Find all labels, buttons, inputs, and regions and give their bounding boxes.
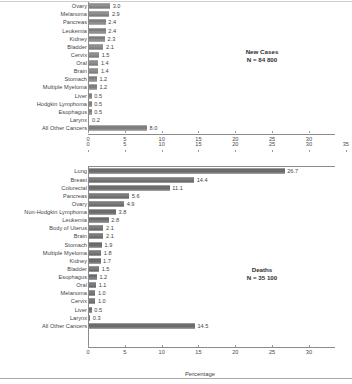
bar-value-label: 0.5 [94, 101, 102, 107]
bar-value-label: 1.0 [98, 290, 106, 296]
category-label: Brain [74, 68, 87, 74]
category-label: Oral [76, 60, 87, 66]
bar-value-label: 0.3 [93, 315, 101, 321]
bar-row: Brain2.1 [0, 232, 352, 240]
bar [88, 85, 97, 90]
bar-wrapper [88, 250, 101, 255]
bar-row: Stomach1.9 [0, 241, 352, 249]
category-label: Bladder [67, 44, 87, 50]
annotation-n: N = 84 800 [212, 56, 312, 64]
bar [88, 169, 285, 174]
bar-value-label: 2.8 [111, 217, 119, 223]
category-label: Liver [75, 307, 87, 313]
category-label: Multiple Myeloma [43, 250, 87, 256]
bar-value-label: 1.2 [99, 84, 107, 90]
bar [88, 201, 124, 206]
x-axis-tick [272, 131, 273, 133]
bar [88, 291, 95, 296]
bar-wrapper [88, 266, 99, 271]
bar-value-label: 1.9 [105, 242, 113, 248]
bar [88, 226, 103, 231]
bar-row: Multiple Myeloma1.8 [0, 249, 352, 257]
bar [88, 69, 98, 74]
bar-wrapper [88, 36, 105, 41]
bar-row: Lung26.7 [0, 167, 352, 175]
bar-wrapper [88, 20, 106, 25]
x-axis-tick-label-upper: 20 [232, 141, 238, 147]
bar-row: Leukemia2.4 [0, 27, 352, 35]
bar-value-label: 0.5 [94, 93, 102, 99]
bar [88, 12, 109, 17]
x-axis-tick [198, 345, 199, 347]
bar-wrapper [88, 69, 98, 74]
bar-value-label: 2.3 [108, 36, 116, 42]
bar-wrapper [88, 28, 106, 33]
bar-wrapper [88, 323, 195, 328]
x-axis-tick-label: 30 [306, 349, 312, 355]
bar-row: Hodgkin Lymphoma0.5 [0, 100, 352, 108]
bar [88, 275, 97, 280]
bar-value-label: 1.7 [103, 258, 111, 264]
category-label: Pancreas [63, 19, 87, 25]
bar-value-label: 1.0 [98, 298, 106, 304]
x-axis-tick [162, 131, 163, 133]
bar-wrapper [88, 210, 116, 215]
bar [88, 283, 96, 288]
bar-wrapper [88, 77, 97, 82]
category-label: Stomach [65, 76, 87, 82]
bar-wrapper [88, 283, 96, 288]
bar-wrapper [88, 275, 97, 280]
bar [88, 218, 109, 223]
bar-value-label: 0.5 [94, 307, 102, 313]
bar-wrapper [88, 201, 124, 206]
bar-row: Brain1.4 [0, 67, 352, 75]
annotation-deaths: Deaths N = 35 100 [212, 266, 312, 283]
bar-value-label: 1.4 [101, 60, 109, 66]
bar-value-label: 26.7 [287, 168, 298, 174]
bar-row: Stomach1.2 [0, 75, 352, 83]
x-axis-tick-label-upper: 30 [306, 141, 312, 147]
category-label: Stomach [65, 242, 87, 248]
category-label: Leukemia [62, 217, 87, 223]
bar-wrapper [88, 4, 110, 9]
bar-value-label: 1.2 [99, 76, 107, 82]
bar-row: Melanoma1.0 [0, 289, 352, 297]
bar-value-label: 1.2 [99, 274, 107, 280]
x-axis-tick [272, 345, 273, 347]
x-axis-tick [125, 345, 126, 347]
x-axis-tick-upper [198, 150, 199, 152]
bar-value-label: 1.4 [101, 68, 109, 74]
bar-value-label: 0.5 [94, 109, 102, 115]
bar [88, 266, 99, 271]
bar [88, 193, 129, 198]
bar [88, 4, 110, 9]
bar-row: Kidney1.7 [0, 257, 352, 265]
bar-wrapper [88, 85, 97, 90]
bar [88, 323, 195, 328]
bar-row: Larynx0.2 [0, 116, 352, 124]
x-axis-tick-label: 5 [123, 349, 126, 355]
bar-wrapper [88, 12, 109, 17]
category-label: Leukemia [62, 28, 87, 34]
bar-wrapper [88, 234, 103, 239]
x-axis-tick-label: 20 [232, 349, 238, 355]
x-axis-tick-label: 25 [269, 349, 275, 355]
bar-row: Liver0.5 [0, 91, 352, 99]
annotation-title: New Cases [212, 48, 312, 56]
bar [88, 242, 102, 247]
bar-value-label: 2.1 [106, 44, 114, 50]
plot-area-new-cases: Ovary3.0Melanoma2.9Pancreas2.4Leukemia2.… [0, 0, 352, 148]
x-axis-tick-upper [309, 150, 310, 152]
bar [88, 44, 103, 49]
bar-row: Multiple Myeloma1.2 [0, 83, 352, 91]
category-label: Esophagus [59, 274, 87, 280]
bar-value-label: 2.4 [108, 28, 116, 34]
bar [88, 234, 103, 239]
category-label: All Other Cancers [42, 125, 87, 131]
category-label: Ovary [72, 201, 87, 207]
x-axis-tick-label-upper: 5 [123, 141, 126, 147]
bar-value-label: 3.0 [113, 3, 121, 9]
x-axis-tick [309, 345, 310, 347]
x-axis-tick-upper [162, 150, 163, 152]
bar-wrapper [88, 242, 102, 247]
